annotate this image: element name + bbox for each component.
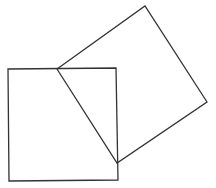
- upright-square: [8, 68, 118, 181]
- tilted-square: [57, 6, 207, 163]
- diagram-canvas: [0, 0, 216, 188]
